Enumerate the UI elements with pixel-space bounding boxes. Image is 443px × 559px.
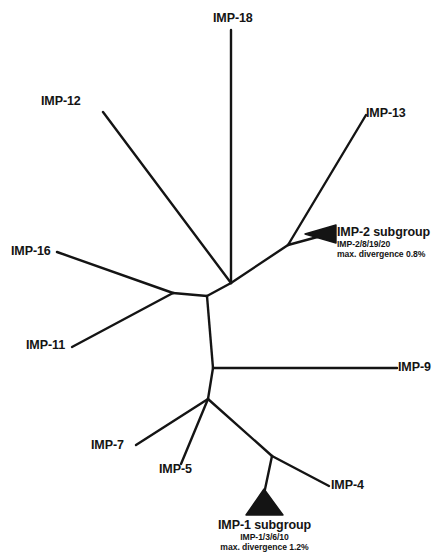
- tree-canvas: [0, 0, 443, 559]
- branch-imp-4: [272, 456, 329, 486]
- clade-imp-1-divergence: max. divergence 1.2%: [196, 543, 333, 553]
- branch-hub-upper: [207, 283, 231, 296]
- tip-label-imp-5: IMP-5: [159, 463, 192, 476]
- clade-imp-1-title: IMP-1 subgroup: [196, 518, 333, 532]
- branch-imp-1-stem: [264, 456, 272, 494]
- tip-label-imp-9: IMP-9: [398, 361, 431, 374]
- tip-label-imp-12: IMP-12: [41, 95, 81, 108]
- tip-label-imp-4: IMP-4: [331, 479, 364, 492]
- branch-imp-16: [57, 252, 173, 293]
- tree-branches: [57, 30, 397, 494]
- branch-imp-11: [72, 293, 173, 347]
- clade-imp-1-subgroup: IMP-1 subgroup IMP-1/3/6/10 max. diverge…: [196, 518, 333, 552]
- tip-label-imp-16: IMP-16: [11, 245, 51, 258]
- branch-imp-12: [103, 112, 231, 283]
- tip-label-imp-18: IMP-18: [213, 12, 253, 25]
- clade-imp-2-title: IMP-2 subgroup: [337, 225, 430, 239]
- tip-label-imp-7: IMP-7: [91, 439, 124, 452]
- imp-1-subgroup-wedge: [246, 489, 283, 515]
- branch-bottom-split: [208, 399, 272, 456]
- branch-hub-imp13-node: [231, 245, 288, 283]
- tip-label-imp-11: IMP-11: [26, 339, 65, 352]
- branch-hub-lower: [207, 296, 213, 368]
- branch-lower-bottom: [208, 368, 213, 399]
- phylogenetic-tree-figure: IMP-18 IMP-12 IMP-13 IMP-16 IMP-11 IMP-9…: [0, 0, 443, 559]
- tip-label-imp-13: IMP-13: [366, 107, 406, 120]
- clade-imp-2-divergence: max. divergence 0.8%: [337, 250, 430, 260]
- clade-imp-2-subgroup: IMP-2 subgroup IMP-2/8/19/20 max. diverg…: [337, 225, 430, 259]
- branch-hub-left: [173, 293, 207, 296]
